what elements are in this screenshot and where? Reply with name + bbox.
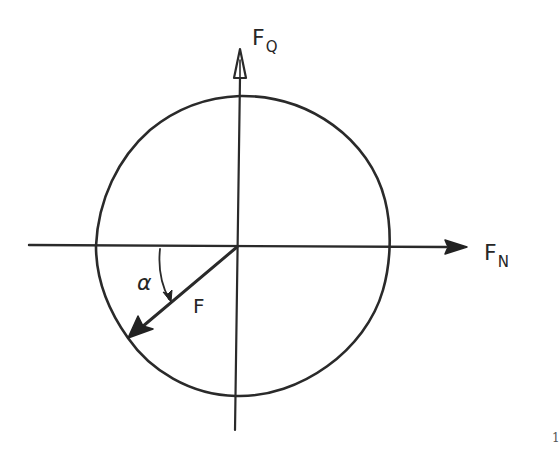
vertical-axis-label-subscript: Q: [266, 38, 278, 56]
force-diagram: [0, 0, 560, 463]
horizontal-axis-arrowhead-icon: [445, 240, 467, 254]
angle-alpha-label: α: [137, 272, 152, 294]
vertical-axis: [235, 78, 240, 430]
angle-alpha-arc: [159, 249, 169, 299]
vertical-axis-label-main: F: [252, 25, 265, 50]
horizontal-axis-label: FN: [484, 242, 509, 264]
force-vector: [142, 247, 237, 327]
vertical-axis-label: FQ: [252, 27, 277, 49]
angle-alpha-arrowhead-icon: [163, 290, 172, 302]
force-vector-label: F: [193, 296, 205, 316]
horizontal-axis-label-main: F: [484, 240, 497, 265]
horizontal-axis-label-subscript: N: [498, 253, 509, 271]
page-number: 1: [552, 431, 560, 445]
